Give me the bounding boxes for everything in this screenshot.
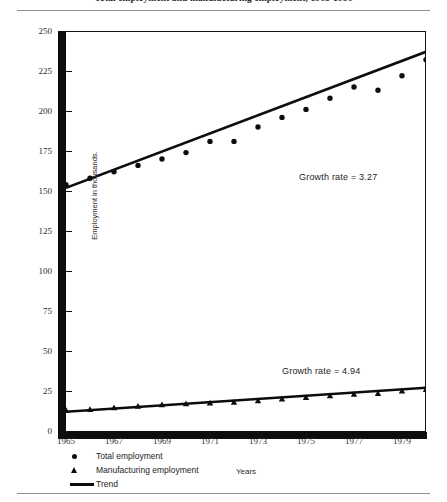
- x-axis-tick-label: 1973: [238, 437, 278, 446]
- x-axis-tick-label: 1965: [46, 437, 86, 446]
- data-point-dot: [327, 96, 332, 101]
- y-axis-tick-label: 75: [18, 307, 52, 316]
- y-axis-tick-label: 125: [18, 227, 52, 236]
- bottom-rule: [17, 493, 430, 494]
- data-point-dot: [423, 57, 426, 62]
- data-layer: [66, 31, 426, 431]
- legend-label: Total employment: [96, 451, 163, 461]
- top-rule: [17, 10, 430, 11]
- legend-item: Manufacturing employment: [70, 463, 320, 477]
- x-axis-tick: [282, 432, 283, 439]
- figure-container: Total employment and manufacturing emplo…: [0, 0, 447, 502]
- data-point-dot: [111, 169, 116, 174]
- legend-item: Trend: [70, 477, 320, 491]
- annotation-total-growth-rate: Growth rate = 3.27: [299, 172, 377, 182]
- y-axis-tick-label: 150: [18, 187, 52, 196]
- trend-line: [66, 52, 426, 188]
- y-axis-tick-label: 250: [18, 27, 52, 36]
- x-axis-tick: [186, 432, 187, 439]
- x-axis-tick: [138, 432, 139, 439]
- y-axis-title: Employment in thousands.: [90, 126, 99, 266]
- x-axis-tick: [426, 432, 427, 439]
- y-axis-tick-label: 25: [18, 387, 52, 396]
- y-axis-tick-label: 50: [18, 347, 52, 356]
- data-point-dot: [231, 139, 236, 144]
- data-point-dot: [279, 115, 284, 120]
- y-axis-tick-label: 200: [18, 107, 52, 116]
- trend-line: [66, 388, 426, 412]
- legend-item: Total employment: [70, 449, 320, 463]
- x-axis-tick-label: 1967: [94, 437, 134, 446]
- plot-area: 0255075100125150175200225250 19651967196…: [66, 31, 426, 431]
- legend-dot-icon: [72, 454, 77, 459]
- figure-title: Total employment and manufacturing emplo…: [0, 0, 447, 5]
- legend: Total employmentManufacturing employment…: [70, 449, 320, 491]
- data-point-dot: [399, 73, 404, 78]
- legend-marker: [70, 483, 96, 486]
- data-point-dot: [351, 84, 356, 89]
- x-axis-tick-label: 1975: [286, 437, 326, 446]
- y-axis-tick-label: 0: [18, 427, 52, 436]
- legend-marker: [70, 467, 96, 473]
- legend-triangle-icon: [71, 467, 77, 473]
- legend-label: Manufacturing employment: [96, 465, 199, 475]
- legend-line-icon: [70, 483, 94, 486]
- y-axis-spine: [58, 31, 66, 431]
- x-axis-tick: [330, 432, 331, 439]
- data-point-dot: [375, 88, 380, 93]
- y-axis-tick-label: 175: [18, 147, 52, 156]
- data-point-dot: [135, 163, 140, 168]
- y-axis-tick-label: 100: [18, 267, 52, 276]
- data-point-dot: [255, 124, 260, 129]
- x-axis-tick-label: 1971: [190, 437, 230, 446]
- annotation-manufacturing-growth-rate: Growth rate = 4.94: [282, 366, 360, 376]
- y-axis-tick-label: 225: [18, 67, 52, 76]
- data-point-dot: [183, 150, 188, 155]
- legend-label: Trend: [96, 479, 118, 489]
- data-point-dot: [207, 139, 212, 144]
- x-axis-tick-label: 1977: [334, 437, 374, 446]
- x-axis-tick-label: 1979: [382, 437, 422, 446]
- x-axis-tick: [90, 432, 91, 439]
- x-axis-tick: [234, 432, 235, 439]
- x-axis-tick-label: 1969: [142, 437, 182, 446]
- x-axis-tick: [378, 432, 379, 439]
- data-point-dot: [303, 107, 308, 112]
- legend-marker: [70, 454, 96, 459]
- data-point-dot: [159, 156, 164, 161]
